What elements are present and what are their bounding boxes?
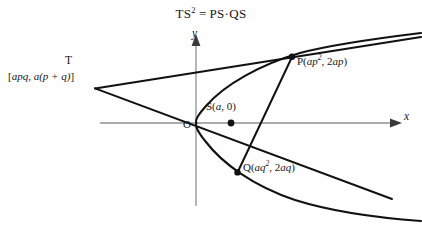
- tangent-line-at-p: [95, 37, 421, 88]
- x-axis: [100, 119, 402, 128]
- point-marker-q: [234, 169, 240, 175]
- point-coordinates-t: [apq, a(p + q)]: [8, 71, 74, 82]
- title-lhs-base: TS: [176, 6, 192, 21]
- figure-title: TS2=PS·QS: [0, 7, 422, 20]
- point-marker-p: [289, 54, 295, 60]
- p-y-value: ap: [333, 55, 344, 67]
- figure-canvas: TS2=PS·QS T [apq, a(p + q)] P(ap2, 2ap) …: [0, 0, 422, 226]
- title-lhs-exponent: 2: [191, 5, 196, 15]
- point-label-q: Q(aq2, 2aq): [243, 162, 295, 173]
- p-separator: , 2: [322, 55, 333, 67]
- q-prefix: Q(: [243, 161, 255, 173]
- point-marker-s: [228, 120, 235, 127]
- p-prefix: P(: [297, 55, 307, 67]
- q-y-value: aq: [280, 161, 291, 173]
- x-axis-arrowhead: [390, 119, 402, 128]
- p-x-base: ap: [307, 55, 318, 67]
- q-separator: , 2: [269, 161, 280, 173]
- point-label-s: S(a, 0): [206, 101, 236, 112]
- p-suffix: ): [344, 55, 348, 67]
- q-suffix: ): [291, 161, 295, 173]
- s-suffix: ): [232, 100, 236, 112]
- point-label-p: P(ap2, 2ap): [297, 56, 347, 67]
- y-axis-label: y: [192, 28, 197, 40]
- s-prefix: S(: [206, 100, 216, 112]
- title-equals: =: [199, 6, 207, 21]
- origin-label: O: [183, 119, 191, 130]
- tangent-line-at-q: [95, 88, 392, 199]
- geometry-figure: [0, 0, 422, 226]
- title-rhs: PS·QS: [210, 6, 247, 21]
- point-label-t: T: [65, 55, 72, 67]
- t-coords-text: apq, a(p + q): [12, 70, 71, 82]
- q-x-base: aq: [255, 161, 266, 173]
- t-coords-close: ]: [70, 70, 74, 82]
- x-axis-label: x: [404, 111, 409, 123]
